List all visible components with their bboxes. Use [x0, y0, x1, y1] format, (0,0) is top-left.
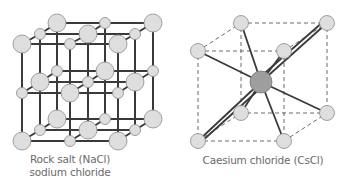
- cscl-caption: Caesium chloride (CsCl): [198, 154, 328, 167]
- nacl-caption-line2: sodium chloride: [20, 166, 120, 179]
- cscl-center-ion: [250, 71, 272, 93]
- cscl-caption-line1: Caesium chloride (CsCl): [198, 154, 328, 167]
- nacl-caption: Rock salt (NaCl) sodium chloride: [20, 153, 120, 178]
- nacl-caption-line1: Rock salt (NaCl): [20, 153, 120, 166]
- nacl-ions: [13, 14, 162, 150]
